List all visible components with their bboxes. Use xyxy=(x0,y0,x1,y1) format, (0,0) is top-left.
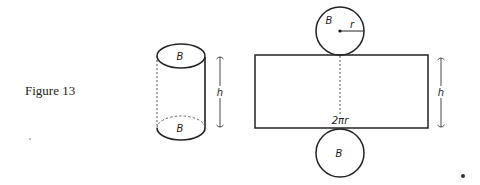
net-rectangle: 2πr xyxy=(255,55,428,128)
rectangle-width-label: 2πr xyxy=(332,115,349,126)
net-top-circle: B r xyxy=(316,7,364,55)
stray-dot xyxy=(461,174,465,178)
cylinder: B B xyxy=(157,44,205,140)
speck-dot xyxy=(29,138,31,140)
net-bottom-circle: B xyxy=(316,129,364,177)
cylinder-height-arrow: h xyxy=(217,57,224,127)
cylinder-bottom-label: B xyxy=(177,123,184,134)
radius-label: r xyxy=(350,19,355,30)
net-height-arrow: h xyxy=(438,58,445,127)
figure-caption: Figure 13 xyxy=(25,83,75,98)
net-height-label: h xyxy=(438,87,444,98)
cylinder-height-label: h xyxy=(217,87,223,98)
net-bottom-circle-label: B xyxy=(336,148,343,159)
figure-13-diagram: Figure 13 B B h B r 2πr h xyxy=(0,0,480,185)
cylinder-top-label: B xyxy=(177,51,184,62)
net-top-circle-label: B xyxy=(326,15,333,26)
